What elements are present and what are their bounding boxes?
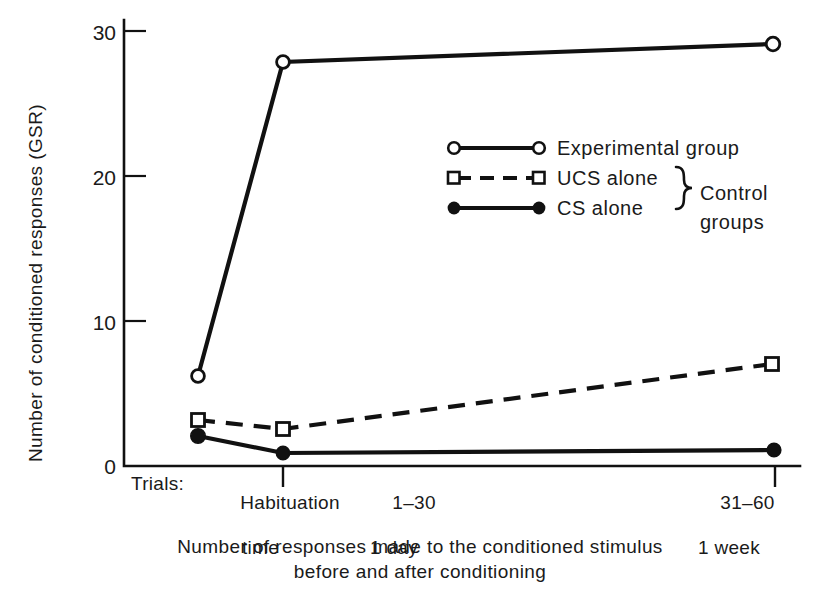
figure-caption-line2: before and after conditioning [294, 561, 546, 582]
legend-sample-ucs [448, 172, 545, 184]
figure-caption-line1: Number of responses made to the conditio… [177, 536, 663, 557]
data-point-experimental-0 [192, 370, 205, 383]
legend-label-cs-alone: CS alone [557, 198, 643, 218]
legend-sample-experimental [448, 142, 545, 154]
legend-sample-cs [448, 202, 546, 215]
legend-group-label-line2: groups [700, 211, 764, 233]
legend-group-label: Control groups [700, 179, 768, 237]
y-tick-marks [124, 31, 146, 321]
figure-caption: Number of responses made to the conditio… [90, 534, 750, 584]
axis-spines [124, 20, 800, 466]
x-category-habituation-line1: Habituation [240, 492, 339, 513]
data-point-ucs-0 [192, 414, 205, 427]
data-point-ucs-1 [277, 423, 290, 436]
data-point-cs-0 [191, 429, 205, 443]
data-point-experimental-1 [277, 56, 290, 69]
x-category-trials-1-30-line1: 1–30 [392, 492, 435, 513]
control-groups-brace-icon [676, 167, 692, 209]
series-ucs-alone [192, 358, 779, 436]
x-axis-trials-label: Trials: [131, 474, 184, 493]
data-point-ucs-2 [766, 358, 779, 371]
chart-figure: Number of conditioned responses (GSR) 30… [0, 0, 838, 599]
legend-group-label-line1: Control [700, 182, 768, 204]
data-point-cs-2 [767, 443, 781, 457]
x-category-trials-31-60-line1: 31–60 [720, 492, 774, 513]
legend-label-experimental-group: Experimental group [557, 138, 739, 158]
legend-label-ucs-alone: UCS alone [557, 168, 658, 188]
data-point-experimental-2 [766, 37, 780, 51]
data-point-cs-1 [276, 446, 289, 459]
